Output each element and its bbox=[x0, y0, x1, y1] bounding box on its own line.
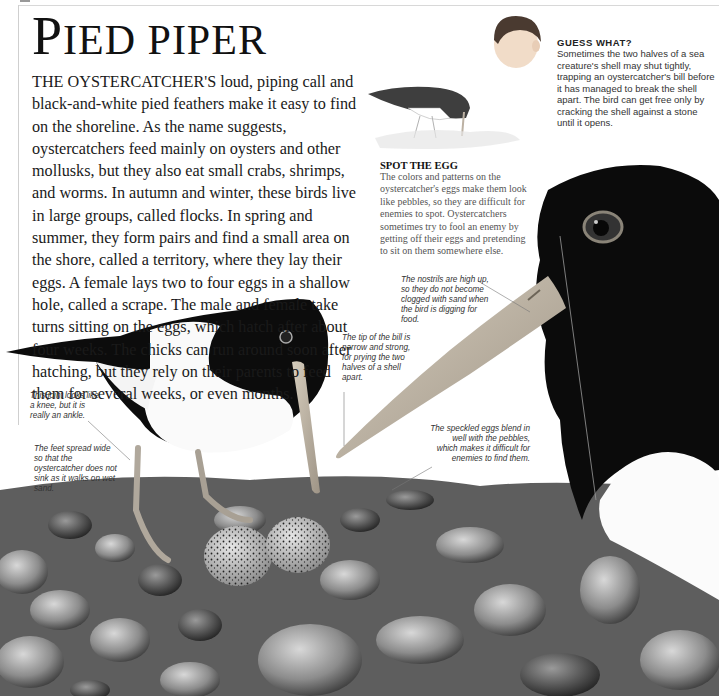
spot-the-egg-heading: SPOT THE EGG bbox=[380, 160, 530, 171]
guess-what-heading: GUESS WHAT? bbox=[557, 37, 717, 48]
title-rest: IED PIPER bbox=[63, 17, 267, 63]
caption-joint: This joint looks like a knee, but it is … bbox=[30, 391, 100, 421]
caption-feet: The feet spread wide so that the oysterc… bbox=[34, 444, 119, 494]
spot-the-egg-body: The colors and patterns on the oystercat… bbox=[380, 171, 530, 258]
caption-bill-tip: The tip of the bill is narrow and strong… bbox=[342, 333, 412, 383]
oystercatcher-sketch bbox=[368, 87, 520, 149]
guess-what-body: Sometimes the two halves of a sea creatu… bbox=[557, 48, 717, 129]
title-initial: P bbox=[32, 6, 63, 66]
child-head-illustration bbox=[494, 16, 541, 68]
intro-paragraph: THE OYSTERCATCHER'S loud, piping call an… bbox=[32, 71, 362, 405]
caption-eggs: The speckled eggs blend in well with the… bbox=[430, 424, 530, 464]
guess-what-box: GUESS WHAT? Sometimes the two halves of … bbox=[557, 37, 717, 129]
page-title: PIED PIPER bbox=[32, 12, 267, 64]
spot-the-egg-box: SPOT THE EGG The colors and patterns on … bbox=[380, 160, 530, 258]
caption-nostrils: The nostrils are high up, so they do not… bbox=[401, 275, 496, 325]
